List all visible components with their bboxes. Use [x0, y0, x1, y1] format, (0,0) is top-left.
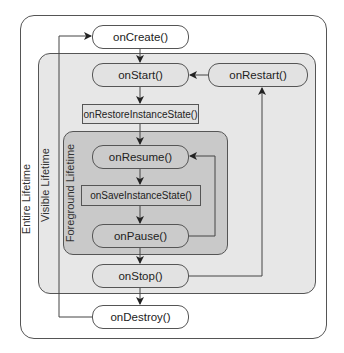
visible-lifetime-label: Visible Lifetime: [39, 135, 53, 235]
on-destroy-node: onDestroy(): [92, 305, 189, 329]
on-restart-node: onRestart(): [208, 63, 308, 87]
on-resume-node: onResume(): [92, 145, 189, 169]
on-pause-node: onPause(): [92, 224, 189, 248]
on-stop-node: onStop(): [92, 264, 189, 288]
foreground-lifetime-label: Foreground Lifetime: [64, 135, 78, 251]
on-start-node: onStart(): [92, 63, 189, 87]
on-create-node: onCreate(): [92, 25, 189, 49]
on-save-instance-state-node: onSaveInstanceState(): [81, 185, 201, 206]
entire-lifetime-label: Entire Lifetime: [20, 151, 34, 247]
on-restore-instance-state-node: onRestoreInstanceState(): [82, 104, 199, 124]
